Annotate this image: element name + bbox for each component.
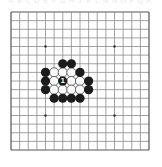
- white-stone[interactable]: [67, 68, 76, 77]
- black-stone[interactable]: [84, 76, 93, 85]
- white-stone[interactable]: [50, 76, 59, 85]
- go-board-figure: ABCDEFGHJKLMNOPQR 1: [0, 0, 162, 167]
- black-stone[interactable]: [50, 94, 59, 103]
- star-point: [113, 45, 116, 48]
- white-stone[interactable]: [67, 85, 76, 94]
- black-stone[interactable]: [58, 59, 67, 68]
- black-stone[interactable]: [41, 85, 50, 94]
- white-stone[interactable]: [50, 85, 59, 94]
- white-stone[interactable]: [75, 85, 84, 94]
- black-stone[interactable]: [67, 59, 76, 68]
- white-stone[interactable]: [75, 76, 84, 85]
- white-stone[interactable]: [58, 68, 67, 77]
- star-point: [44, 114, 47, 117]
- black-stone[interactable]: [84, 85, 93, 94]
- star-point: [44, 45, 47, 48]
- black-stone[interactable]: [75, 68, 84, 77]
- white-stone[interactable]: [50, 68, 59, 77]
- black-stone[interactable]: [58, 94, 67, 103]
- black-stone[interactable]: [41, 68, 50, 77]
- white-stone[interactable]: [58, 85, 67, 94]
- black-stone[interactable]: [75, 94, 84, 103]
- star-point: [113, 114, 116, 117]
- black-stone[interactable]: [41, 76, 50, 85]
- go-board[interactable]: 1: [0, 0, 162, 167]
- black-stone[interactable]: [58, 76, 67, 85]
- go-board-canvas[interactable]: [0, 0, 162, 167]
- black-stone[interactable]: [67, 94, 76, 103]
- white-stone[interactable]: [67, 76, 76, 85]
- black-stone-group[interactable]: [41, 59, 93, 103]
